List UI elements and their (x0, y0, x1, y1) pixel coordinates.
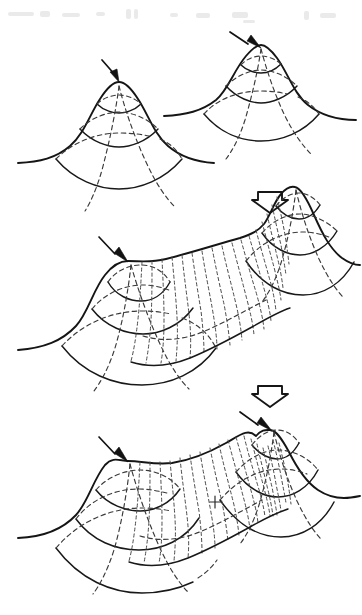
ridge-silhouette-middle (18, 187, 360, 350)
peak-right-top-panel (164, 32, 356, 159)
figure-root: Merging of two peaks into a single ridge… (0, 0, 362, 615)
summit-arrow-left-bottom (99, 437, 128, 462)
panel-middle (18, 187, 360, 391)
summit-arrow-right (230, 32, 261, 48)
surface-merging-diagram (0, 0, 362, 615)
summit-arrow-left (102, 60, 119, 82)
panel-top (18, 32, 356, 211)
scan-ghost-artifact (8, 9, 336, 23)
transition-arrow-1 (252, 192, 288, 213)
summit-arrow-right-bottom (240, 412, 272, 431)
saddle-point-marker (210, 496, 221, 508)
transition-arrow-2 (252, 386, 288, 407)
peak-left-top-panel (18, 60, 214, 211)
panel-bottom (18, 412, 360, 594)
saddle-hatching-bottom (129, 436, 291, 563)
summit-arrow-left-middle (99, 237, 128, 262)
